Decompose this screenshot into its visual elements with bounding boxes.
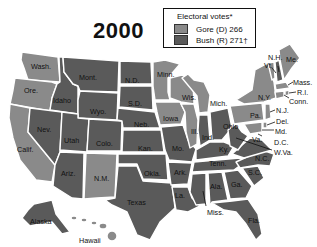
- label-mont: Mont.: [79, 73, 97, 82]
- legend: Electoral votes* Gore (D) 266 Bush (R) 2…: [163, 8, 256, 48]
- label-la: La.: [175, 191, 185, 200]
- label-me: Me.: [286, 55, 298, 64]
- label-nj: N.J.: [276, 106, 289, 115]
- label-mo: Mo.: [172, 144, 184, 153]
- label-md: Md.: [275, 127, 287, 136]
- map-title: 2000: [93, 18, 144, 44]
- label-sd: S.D.: [128, 99, 142, 108]
- label-conn: Conn.: [289, 97, 308, 106]
- label-ala: Ala.: [210, 182, 222, 191]
- label-tenn: Tenn.: [209, 159, 227, 168]
- label-ohio: Ohio: [223, 122, 238, 131]
- label-wash: Wash.: [31, 62, 51, 71]
- label-wyo: Wyo.: [90, 107, 106, 116]
- label-ky: Ky.: [219, 145, 229, 154]
- label-colo: Colo.: [96, 139, 113, 148]
- label-nc: N.C.: [255, 154, 269, 163]
- label-ore: Ore.: [24, 86, 38, 95]
- label-ariz: Ariz.: [61, 169, 75, 178]
- us-electoral-map: Wash. Ore. Calif. Idaho Nev. Mont. Wyo. …: [0, 0, 317, 247]
- state-md: [244, 122, 262, 134]
- label-minn: Minn.: [157, 70, 175, 79]
- legend-item-gore: Gore (D) 266: [174, 24, 243, 34]
- label-texas: Texas: [127, 198, 146, 207]
- gore-swatch: [174, 24, 188, 34]
- label-neb: Neb.: [134, 120, 149, 129]
- label-hawaii: Hawaii: [79, 236, 101, 245]
- bush-swatch: [174, 35, 188, 45]
- label-ark: Ark.: [174, 168, 187, 177]
- state-ri: [285, 90, 289, 96]
- legend-item-bush: Bush (R) 271†: [174, 35, 248, 45]
- label-ga: Ga.: [231, 180, 243, 189]
- label-idaho: Idaho: [53, 96, 71, 105]
- state-mass: [275, 82, 290, 90]
- label-dc: D.C.: [274, 138, 288, 147]
- label-ri: R.I.: [297, 88, 308, 97]
- label-ill: Ill.: [191, 127, 198, 136]
- label-pa: Pa.: [250, 111, 261, 120]
- label-va: Va.: [252, 135, 262, 144]
- label-calif: Calif.: [17, 145, 33, 154]
- label-nm: N.M.: [94, 174, 109, 183]
- label-vt: Vt.: [264, 61, 273, 70]
- label-miss: Miss.: [207, 208, 224, 217]
- label-nev: Nev.: [37, 125, 51, 134]
- label-okla: Okla.: [144, 169, 161, 178]
- label-del: Del.: [276, 117, 289, 126]
- label-mich: Mich.: [210, 99, 227, 108]
- legend-label-gore: Gore (D) 266: [196, 25, 243, 34]
- label-mass: Mass.: [293, 78, 312, 87]
- label-nh: N.H.: [268, 53, 282, 62]
- label-wis: Wis.: [182, 93, 196, 102]
- label-nd: N.D.: [125, 76, 139, 85]
- legend-title: Electoral votes*: [177, 12, 233, 21]
- label-wva: W.Va.: [274, 148, 293, 157]
- label-iowa: Iowa: [163, 114, 178, 123]
- label-fla: Fla.: [248, 216, 260, 225]
- label-utah: Utah: [64, 136, 79, 145]
- label-ind: Ind.: [202, 133, 214, 142]
- label-sc: S.C.: [248, 168, 262, 177]
- label-kan: Kan.: [138, 144, 153, 153]
- legend-label-bush: Bush (R) 271†: [196, 36, 248, 45]
- state-utah: [60, 112, 89, 152]
- label-ny: N.Y.: [258, 93, 271, 102]
- label-alaska: Alaska: [30, 217, 52, 226]
- state-conn: [275, 91, 284, 99]
- state-del: [263, 122, 267, 128]
